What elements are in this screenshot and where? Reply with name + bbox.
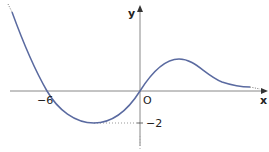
y-axis-arrow-icon <box>137 5 143 12</box>
y-tick-label: −2 <box>146 117 162 130</box>
function-graph: y x O −6 −2 <box>0 0 269 152</box>
x-tick-label: −6 <box>37 94 53 107</box>
y-axis-label: y <box>128 7 135 20</box>
origin-label: O <box>143 94 152 107</box>
curve-left-extension <box>8 4 12 12</box>
x-axis-label: x <box>260 94 267 107</box>
curve-right-extension <box>250 87 260 89</box>
